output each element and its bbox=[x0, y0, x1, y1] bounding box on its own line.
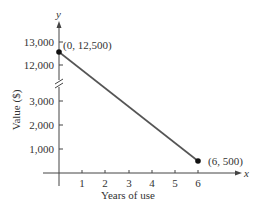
y-axis-title: Value ($) bbox=[10, 89, 23, 130]
x-tick-label: 2 bbox=[102, 177, 108, 189]
x-tick-label: 1 bbox=[79, 177, 85, 189]
y-ticks bbox=[59, 42, 63, 149]
x-tick-label: 6 bbox=[195, 177, 201, 189]
x-tick-label: 4 bbox=[149, 177, 155, 189]
data-line bbox=[59, 52, 198, 161]
y-tick-label: 1,000 bbox=[29, 143, 54, 155]
data-point-start bbox=[56, 49, 62, 55]
chart: y x 1 2 3 4 5 6 1,000 2,000 3,000 12,000… bbox=[0, 0, 259, 205]
annotation-start: (0, 12,500) bbox=[63, 39, 112, 52]
axis-break-icon bbox=[55, 79, 63, 88]
annotation-end: (6, 500) bbox=[208, 155, 243, 168]
x-axis-title: Years of use bbox=[101, 189, 155, 201]
x-axis-variable: x bbox=[243, 167, 249, 179]
y-tick-label: 2,000 bbox=[29, 119, 54, 131]
y-axis-variable: y bbox=[55, 8, 61, 20]
y-tick-label: 12,000 bbox=[24, 59, 55, 71]
x-tick-label: 5 bbox=[172, 177, 178, 189]
y-tick-label: 3,000 bbox=[29, 95, 54, 107]
x-tick-label: 3 bbox=[126, 177, 132, 189]
data-point-end bbox=[195, 158, 201, 164]
y-axis-arrow-icon bbox=[57, 21, 62, 28]
y-tick-label: 13,000 bbox=[24, 36, 55, 48]
x-axis-arrow-icon bbox=[235, 171, 242, 176]
